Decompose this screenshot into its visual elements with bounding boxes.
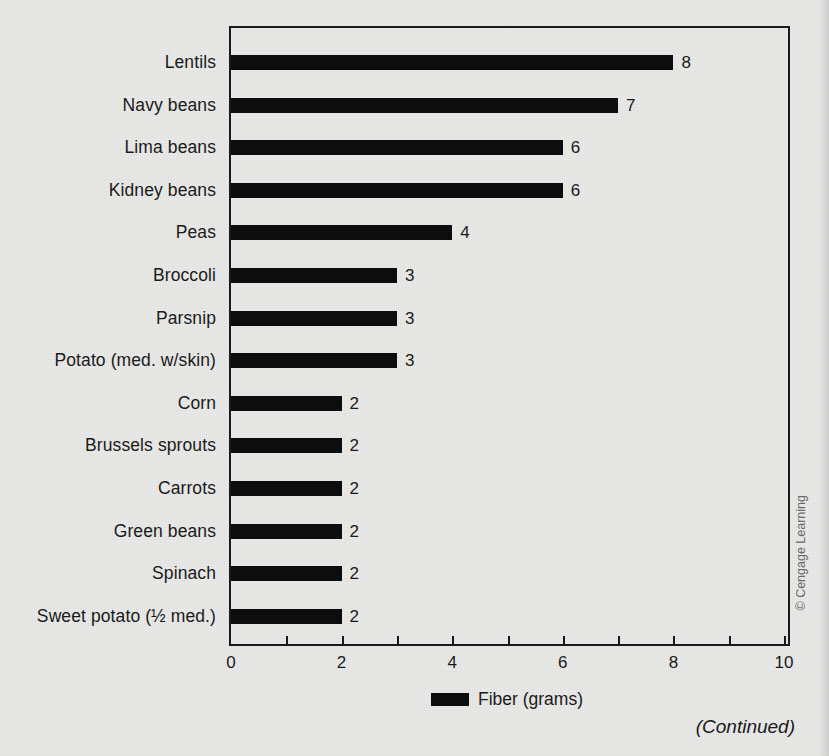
bar bbox=[231, 311, 397, 326]
bar bbox=[231, 524, 342, 539]
x-axis-tick bbox=[618, 636, 620, 646]
bar-row: Peas4 bbox=[0, 217, 829, 260]
bar bbox=[231, 140, 563, 155]
category-label: Spinach bbox=[0, 564, 216, 583]
category-label: Green beans bbox=[0, 522, 216, 541]
legend-swatch-fiber bbox=[431, 693, 469, 706]
category-label: Sweet potato (½ med.) bbox=[0, 607, 216, 626]
bar bbox=[231, 566, 342, 581]
x-axis-tick bbox=[784, 636, 786, 646]
bar-value-label: 6 bbox=[571, 139, 580, 157]
bar-row: Sweet potato (½ med.)2 bbox=[0, 601, 829, 644]
category-label: Navy beans bbox=[0, 96, 216, 115]
bar-value-label: 4 bbox=[460, 224, 469, 242]
bar bbox=[231, 609, 342, 624]
bar-row: Lima beans6 bbox=[0, 132, 829, 175]
category-label: Lentils bbox=[0, 53, 216, 72]
bar-row: Navy beans7 bbox=[0, 90, 829, 133]
bar-value-label: 3 bbox=[405, 310, 414, 328]
x-axis: 0246810 bbox=[229, 646, 790, 692]
bar-value-label: 2 bbox=[350, 565, 359, 583]
x-axis-tick-label: 4 bbox=[447, 654, 456, 672]
bar bbox=[231, 481, 342, 496]
x-axis-tick bbox=[342, 636, 344, 646]
category-label: Corn bbox=[0, 394, 216, 413]
bar-value-label: 2 bbox=[350, 523, 359, 541]
bar-value-label: 2 bbox=[350, 608, 359, 626]
bar-row: Parsnip3 bbox=[0, 303, 829, 346]
x-axis-tick bbox=[508, 636, 510, 646]
bar-value-label: 8 bbox=[681, 54, 690, 72]
x-axis-tick bbox=[397, 636, 399, 646]
category-label: Peas bbox=[0, 223, 216, 242]
bar bbox=[231, 353, 397, 368]
bar-value-label: 2 bbox=[350, 437, 359, 455]
bar bbox=[231, 55, 673, 70]
bar-row: Spinach2 bbox=[0, 558, 829, 601]
category-label: Broccoli bbox=[0, 266, 216, 285]
bar-row: Kidney beans6 bbox=[0, 175, 829, 218]
bar-value-label: 7 bbox=[626, 97, 635, 115]
x-axis-tick bbox=[673, 636, 675, 646]
category-label: Carrots bbox=[0, 479, 216, 498]
category-label: Brussels sprouts bbox=[0, 436, 216, 455]
x-axis-tick bbox=[452, 636, 454, 646]
category-label: Parsnip bbox=[0, 309, 216, 328]
legend-label-fiber: Fiber (grams) bbox=[478, 690, 583, 709]
continued-note: (Continued) bbox=[696, 716, 795, 738]
x-axis-tick bbox=[563, 636, 565, 646]
bar-value-label: 3 bbox=[405, 352, 414, 370]
x-axis-tick bbox=[286, 636, 288, 646]
x-axis-tick-label: 0 bbox=[226, 654, 235, 672]
bar-row: Potato (med. w/skin)3 bbox=[0, 345, 829, 388]
bar bbox=[231, 183, 563, 198]
x-axis-tick bbox=[729, 636, 731, 646]
bar-row: Green beans2 bbox=[0, 516, 829, 559]
bar bbox=[231, 268, 397, 283]
bar-row: Corn2 bbox=[0, 388, 829, 431]
chart-legend: Fiber (grams) bbox=[431, 690, 583, 709]
copyright-credit: © Cengage Learning bbox=[795, 495, 808, 611]
bar bbox=[231, 396, 342, 411]
category-label: Lima beans bbox=[0, 138, 216, 157]
bar-row: Carrots2 bbox=[0, 473, 829, 516]
bar bbox=[231, 225, 452, 240]
bar bbox=[231, 438, 342, 453]
x-axis-tick-label: 6 bbox=[558, 654, 567, 672]
bar-value-label: 6 bbox=[571, 182, 580, 200]
bar bbox=[231, 98, 618, 113]
bar-row: Brussels sprouts2 bbox=[0, 430, 829, 473]
category-label: Potato (med. w/skin) bbox=[0, 351, 216, 370]
figure-page: Lentils8Navy beans7Lima beans6Kidney bea… bbox=[0, 0, 829, 756]
category-label: Kidney beans bbox=[0, 181, 216, 200]
x-axis-tick-label: 10 bbox=[775, 654, 794, 672]
bar-row: Lentils8 bbox=[0, 47, 829, 90]
bar-value-label: 3 bbox=[405, 267, 414, 285]
x-axis-tick-label: 2 bbox=[337, 654, 346, 672]
x-axis-tick-label: 8 bbox=[669, 654, 678, 672]
bar-value-label: 2 bbox=[350, 395, 359, 413]
bar-row: Broccoli3 bbox=[0, 260, 829, 303]
bar-value-label: 2 bbox=[350, 480, 359, 498]
